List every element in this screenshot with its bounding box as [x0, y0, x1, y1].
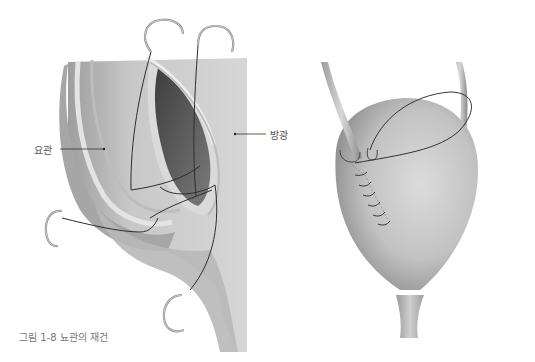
figure-caption: 그림 1-8 뇨관의 재건	[19, 329, 108, 344]
figure-illustration	[0, 0, 535, 362]
right-illustration	[321, 62, 478, 338]
bladder-label: 방광	[270, 127, 288, 142]
left-illustration	[46, 20, 266, 352]
ureter-label: 요관	[34, 142, 52, 157]
